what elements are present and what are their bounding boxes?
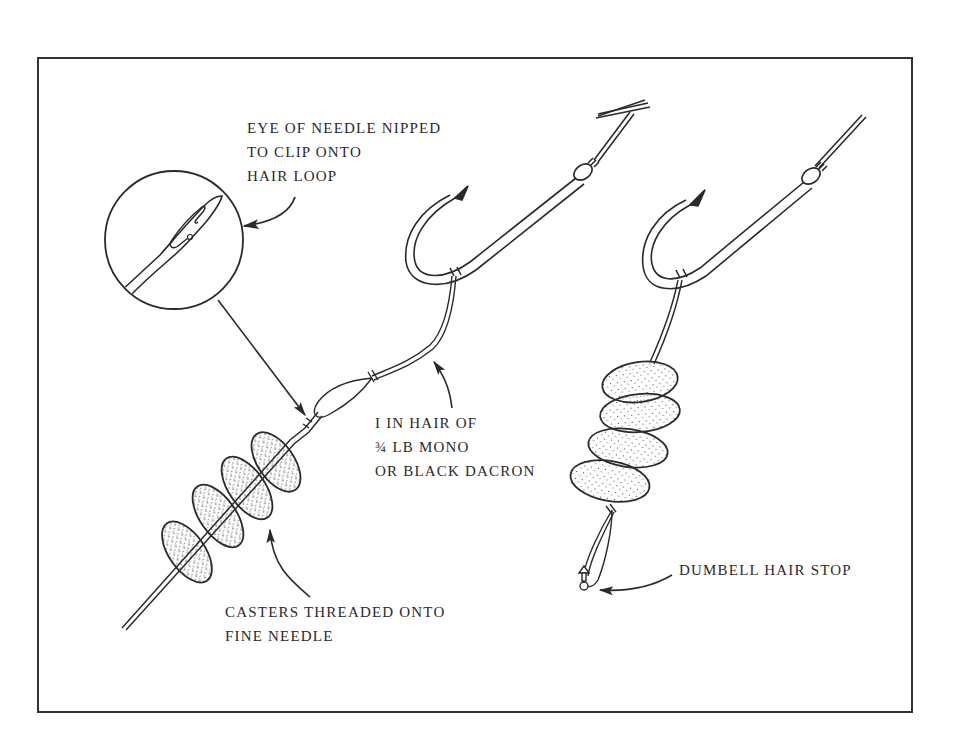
needle-eye-label-line-1: EYE OF NEEDLE NIPPED	[247, 116, 441, 140]
hair-stop-arrow	[600, 575, 672, 590]
needle-eye-arrow	[244, 197, 295, 226]
dumbell-hair-stop	[579, 566, 589, 590]
needle-eye-label: EYE OF NEEDLE NIPPED TO CLIP ONTO HAIR L…	[247, 116, 441, 188]
inset-pointer-arrow	[218, 300, 305, 415]
hair-stop-label: DUMBELL HAIR STOP	[679, 558, 852, 582]
needle-eye-label-line-3: HAIR LOOP	[247, 164, 441, 188]
needle-eye-label-line-2: TO CLIP ONTO	[247, 140, 441, 164]
casters-arrow	[270, 530, 310, 597]
hair-material-label-line-2: ¾ LB MONO	[375, 435, 536, 459]
hair-material-label: I IN HAIR OF ¾ LB MONO OR BLACK DACRON	[375, 411, 536, 483]
hair-material-label-line-3: OR BLACK DACRON	[375, 459, 536, 483]
casters-label: CASTERS THREADED ONTO FINE NEEDLE	[225, 600, 446, 648]
casters-label-line-2: FINE NEEDLE	[225, 624, 446, 648]
hair-stop-label-line-1: DUMBELL HAIR STOP	[679, 558, 852, 582]
needle-eye-inset	[105, 171, 243, 309]
left-casters	[152, 424, 310, 591]
hair-material-label-line-1: I IN HAIR OF	[375, 411, 536, 435]
left-hair	[314, 276, 456, 417]
right-hook	[643, 115, 866, 289]
right-casters	[567, 357, 681, 508]
left-hook	[406, 100, 650, 284]
diagram-artwork	[0, 0, 953, 756]
hair-material-arrow	[434, 362, 452, 408]
casters-label-line-1: CASTERS THREADED ONTO	[225, 600, 446, 624]
